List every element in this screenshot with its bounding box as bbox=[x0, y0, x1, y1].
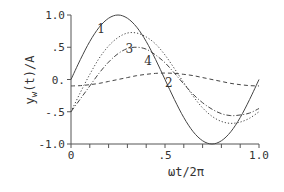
curve-label-1: 1 bbox=[97, 22, 105, 36]
curve-label-4: 4 bbox=[144, 54, 152, 68]
y-axis: 1.0.50.-.5-1.0 bbox=[39, 9, 72, 151]
x-axis-label: ωt/2π bbox=[168, 165, 204, 179]
y-tick-label: -1.0 bbox=[39, 138, 66, 151]
y-tick-label: 1.0 bbox=[45, 9, 65, 22]
curve-label-2: 2 bbox=[165, 76, 173, 90]
svg-text:yw(t)/A: yw(t)/A bbox=[23, 55, 39, 105]
y-label-rest: (t)/A bbox=[23, 55, 37, 92]
chart: 1.0.50.-.5-1.0 0.51.0 1234 ωt/2π yw(t)/A bbox=[0, 0, 284, 192]
x-tick-label: 0 bbox=[68, 149, 75, 162]
y-axis-label: yw(t)/A bbox=[23, 55, 39, 105]
curve-label-3: 3 bbox=[125, 42, 133, 56]
y-label-main: y bbox=[23, 97, 37, 104]
y-tick-label: .5 bbox=[52, 41, 65, 54]
x-axis: 0.51.0 bbox=[68, 144, 269, 162]
x-tick-label: .5 bbox=[158, 149, 171, 162]
x-tick-label: 1.0 bbox=[249, 149, 269, 162]
y-tick-label: -.5 bbox=[45, 106, 65, 119]
y-tick-label: 0. bbox=[52, 74, 65, 87]
